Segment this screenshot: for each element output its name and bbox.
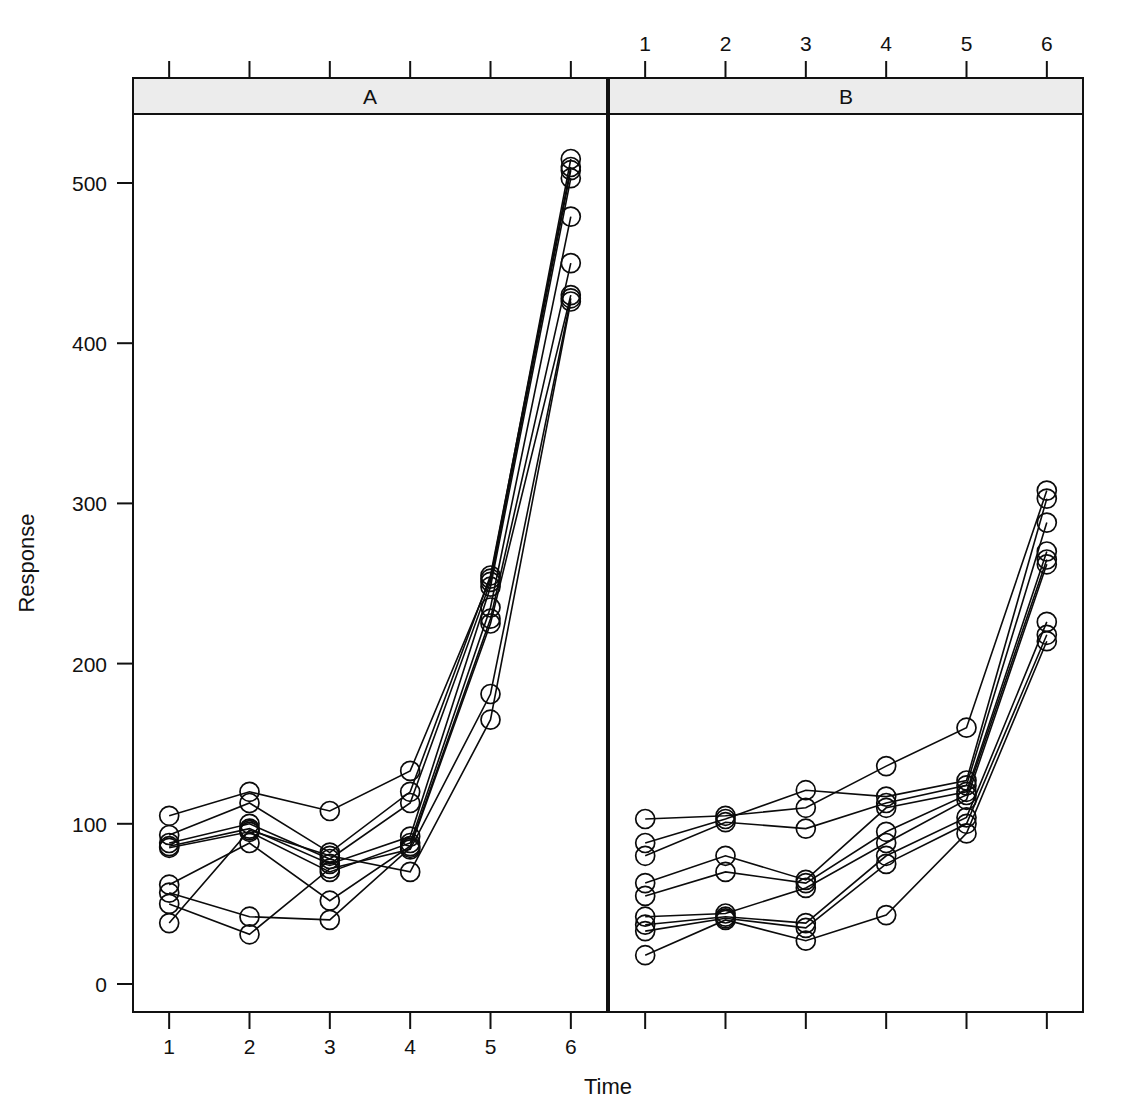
x-tick-label-B-3: 3 (800, 32, 812, 55)
series-line-B-s9 (645, 641, 1047, 955)
y-axis: 0100200300400500Response (14, 172, 133, 996)
frame-path-A (133, 114, 607, 1012)
chart-root: AB0100200300400500Response123456123456Ti… (14, 32, 1083, 1099)
panel-strip-B: B (609, 78, 1083, 114)
trellis-line-chart: AB0100200300400500Response123456123456Ti… (0, 0, 1128, 1110)
x-tick-label-A-1: 1 (163, 1035, 175, 1058)
x-tick-label-B-6: 6 (1041, 32, 1053, 55)
series-line-B-s6 (645, 564, 1047, 916)
x-axis-B: 123456 (639, 32, 1052, 78)
frame-path-B (609, 114, 1083, 1012)
strip-label-A: A (363, 85, 377, 108)
x-tick-label-A-4: 4 (404, 1035, 416, 1058)
y-tick-label-200: 200 (72, 653, 107, 676)
x-tick-label-B-2: 2 (720, 32, 732, 55)
x-tick-label-A-3: 3 (324, 1035, 336, 1058)
series-line-A-s3 (169, 170, 571, 859)
x-tick-label-A-5: 5 (485, 1035, 497, 1058)
x-axis-A: 123456 (163, 1012, 576, 1058)
x-tick-label-B-4: 4 (880, 32, 892, 55)
x-tick-label-B-5: 5 (961, 32, 973, 55)
chart-figure: AB0100200300400500Response123456123456Ti… (0, 0, 1128, 1110)
series-line-A-s9 (169, 302, 571, 924)
frame-overlay-A (133, 114, 607, 1012)
series-line-B-s5 (645, 560, 1047, 896)
y-tick-label-300: 300 (72, 492, 107, 515)
series-line-B-s8 (645, 635, 1047, 931)
y-tick-label-100: 100 (72, 813, 107, 836)
panel-strip-A: A (133, 78, 607, 114)
panel-frame-A (133, 114, 607, 1012)
x-tick-label-A-2: 2 (244, 1035, 256, 1058)
panel-frame-B (609, 114, 1083, 1012)
series-line-B-s3 (645, 523, 1047, 856)
y-tick-label-400: 400 (72, 332, 107, 355)
panel-data-B (636, 481, 1057, 965)
x-tick-label-B-1: 1 (639, 32, 651, 55)
series-line-A-s6 (169, 263, 571, 901)
strip-label-B: B (839, 85, 853, 108)
panel-data-A (160, 150, 581, 944)
series-line-A-s4 (169, 178, 571, 864)
frame-overlay-B (609, 114, 1083, 1012)
y-tick-label-500: 500 (72, 172, 107, 195)
y-tick-label-0: 0 (95, 973, 107, 996)
y-axis-title: Response (14, 513, 39, 612)
series-line-A-s7 (169, 295, 571, 920)
x-tick-label-A-6: 6 (565, 1035, 577, 1058)
x-axis-title: Time (584, 1074, 632, 1099)
